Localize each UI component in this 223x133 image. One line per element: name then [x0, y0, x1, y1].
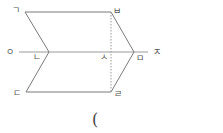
- label-nieun: ㄴ: [33, 53, 41, 62]
- label-mieum: ㅁ: [136, 54, 144, 63]
- geometry-figure: ㄱ ㅂ ㅇ ㄴ ㅅ ㅁ ㅈ ㄷ ㄹ (: [0, 0, 223, 133]
- answer-blank-open-paren: (: [92, 112, 98, 128]
- label-bieup: ㅂ: [113, 7, 121, 16]
- label-ieung: ㅇ: [6, 48, 14, 57]
- label-giyeok: ㄱ: [12, 6, 20, 15]
- label-rieul: ㄹ: [114, 90, 122, 99]
- figure-drawing: [0, 0, 223, 133]
- label-jieut: ㅈ: [153, 48, 161, 57]
- label-digeut: ㄷ: [13, 89, 21, 98]
- label-siot: ㅅ: [100, 53, 108, 62]
